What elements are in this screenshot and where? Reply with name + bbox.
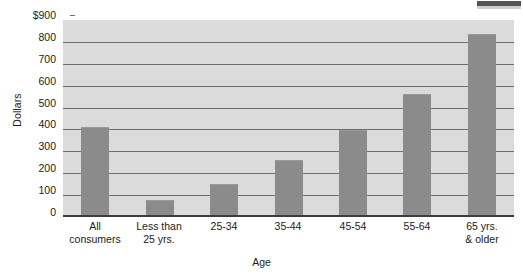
x-axis-title: Age [0, 256, 523, 268]
x-axis-tick-label-line: 55-64 [385, 220, 449, 233]
y-axis-tick-label: 100 [12, 185, 56, 195]
x-axis-tick-label: 35-44 [256, 220, 320, 233]
y-axis-tick-label: 200 [12, 163, 56, 173]
y-axis-tick-labels: $9008007006005004003002001000 [12, 14, 56, 218]
x-axis-tick-label-line: 65 yrs. [450, 220, 514, 233]
bar [339, 130, 367, 217]
x-axis-tick-label: 25-34 [192, 220, 256, 233]
gridline [63, 108, 514, 109]
x-axis-tick-label-line: consumers [63, 233, 127, 246]
bar-chart: Dollars $9008007006005004003002001000 Al… [0, 0, 523, 277]
y-axis-tick-label: 600 [12, 76, 56, 86]
gridline [63, 151, 514, 152]
bar [81, 127, 109, 217]
x-axis-tick-label: 55-64 [385, 220, 449, 233]
x-axis-tick-label: Less than25 yrs. [127, 220, 191, 245]
plot-inner [63, 20, 514, 217]
x-axis-tick-label: Allconsumers [63, 220, 127, 245]
bar [275, 160, 303, 217]
x-axis-tick-label: 65 yrs.& older [450, 220, 514, 245]
y-axis-tick-mark [70, 15, 75, 16]
bar [468, 34, 496, 217]
x-axis-tick-label-line: 45-54 [321, 220, 385, 233]
x-axis-tick-label: 45-54 [321, 220, 385, 233]
y-axis-tick-label: 500 [12, 98, 56, 108]
y-axis-tick-label: 300 [12, 141, 56, 151]
y-axis-tick-label: $900 [12, 10, 56, 20]
bar [403, 94, 431, 217]
x-axis-tick-label-line: 25 yrs. [127, 233, 191, 246]
y-axis-tick-label: 800 [12, 32, 56, 42]
gridline [63, 86, 514, 87]
gridline [63, 42, 514, 43]
x-axis-tick-label-line: All [63, 220, 127, 233]
gridline [63, 64, 514, 65]
x-axis-tick-label-line: Less than [127, 220, 191, 233]
x-axis-tick-label-line: 25-34 [192, 220, 256, 233]
plot-area [63, 20, 514, 217]
x-axis-tick-label-line: & older [450, 233, 514, 246]
y-axis-tick-label: 0 [12, 207, 56, 217]
x-axis-tick-label-line: 35-44 [256, 220, 320, 233]
x-axis-line [63, 215, 514, 217]
gridline [63, 129, 514, 130]
y-axis-tick-label: 700 [12, 54, 56, 64]
bar [210, 184, 238, 217]
x-axis-tick-labels: AllconsumersLess than25 yrs.25-3435-4445… [63, 220, 514, 254]
y-axis-tick-label: 400 [12, 119, 56, 129]
